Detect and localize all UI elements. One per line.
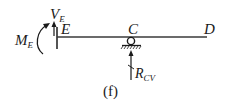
moment-arrow-icon xyxy=(37,23,50,54)
point-label-e: E xyxy=(61,22,70,37)
point-label-c: C xyxy=(128,22,138,37)
point-label-d: D xyxy=(204,22,215,37)
roller-support-icon xyxy=(121,37,141,49)
reaction-label: RCV xyxy=(135,67,155,83)
figure-caption: (f) xyxy=(103,83,118,100)
moment-label: ME xyxy=(15,33,33,50)
reaction-arrow-icon xyxy=(128,50,134,80)
